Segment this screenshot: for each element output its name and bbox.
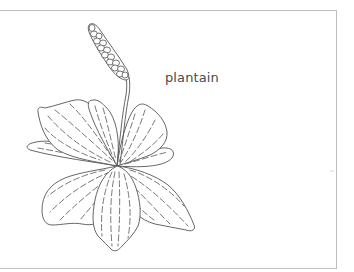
scan-speck: [330, 170, 334, 172]
flower-spike: [88, 24, 129, 80]
plantain-drawing: [0, 0, 354, 272]
